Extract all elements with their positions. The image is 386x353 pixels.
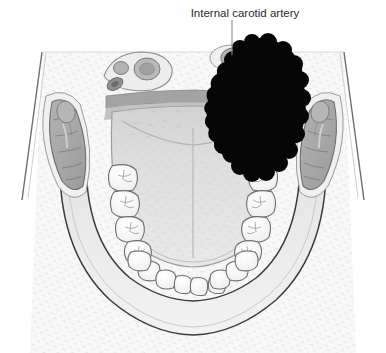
anatomy-canvas: Internal carotid artery bbox=[0, 0, 386, 353]
anatomy-figure: Internal carotid artery bbox=[0, 0, 386, 353]
vessel-medium bbox=[114, 62, 129, 75]
internal-carotid-artery-label: Internal carotid artery bbox=[191, 7, 300, 19]
